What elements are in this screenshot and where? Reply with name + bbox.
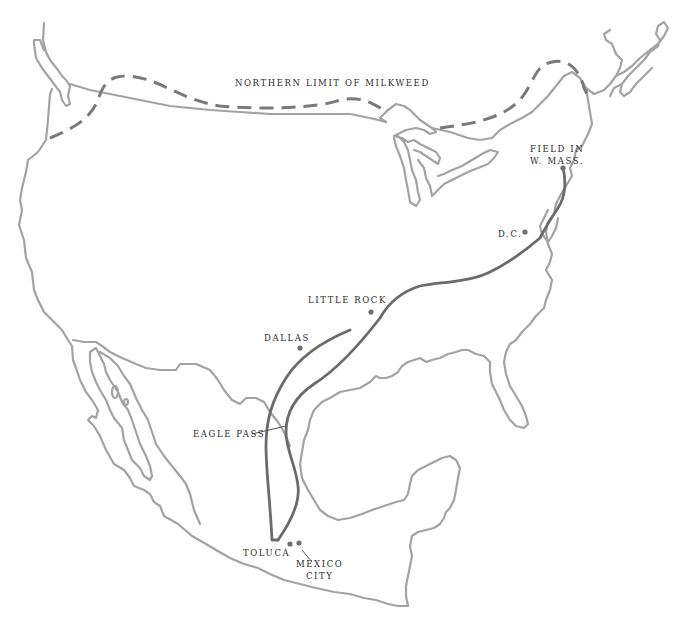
eagle-pass-label: EAGLE PASS [193,428,265,440]
migration-map: NORTHERN LIMIT OF MILKWEED FIELD IN W. M… [0,0,686,629]
mexico-city-label-line1: MEXICO [296,558,343,570]
dc-label: D.C. [498,228,523,240]
chesapeake-bay [540,210,558,242]
mexico-gulf-of-california-coast [100,352,200,524]
toluca-dot [287,541,292,546]
little-rock-label: LITTLE ROCK [308,294,387,306]
field-w-mass-label: FIELD IN W. MASS. [530,143,584,167]
dc-dot [522,229,527,234]
us-canada-border [70,84,386,122]
mexico-city-label: MEXICO CITY [296,558,343,582]
northeast-coast [304,30,622,440]
little-rock-dot [368,309,373,314]
mexico-city-dot [296,540,301,545]
northern-limit-label: NORTHERN LIMIT OF MILKWEED [235,77,430,89]
map-canvas [0,0,686,629]
baja-island-2 [124,399,128,405]
migration-route-east [278,168,565,540]
migration-route-west [266,330,350,540]
field-w-mass-label-line2: W. MASS. [530,155,584,167]
toluca-label: TOLUCA [243,547,290,559]
dallas-dot [297,345,302,350]
maritimes-coast [610,22,668,96]
great-lakes [380,104,498,206]
field-w-mass-label-line1: FIELD IN [530,143,584,155]
mexico-city-label-line2: CITY [296,570,343,582]
dallas-label: DALLAS [264,332,310,344]
